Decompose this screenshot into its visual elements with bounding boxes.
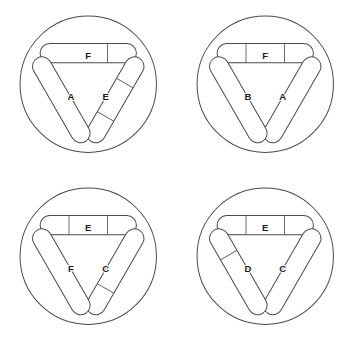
panel-3: ECF [0,172,177,344]
panel-4-canvas: ECD [177,172,353,344]
bar-label-b: B [244,91,251,102]
bar-label-c: C [279,264,286,275]
bar-label-e: E [102,91,108,102]
bar-label-c: C [102,264,109,275]
panel-2: FAB [177,0,353,172]
bar-label-d: D [244,264,251,275]
panel-grid: FEAFABECFECD [0,0,353,344]
panel-1: FEA [0,0,177,172]
panel-4: ECD [177,172,353,344]
panel-1-canvas: FEA [0,0,177,172]
bar-label-f: F [85,50,91,61]
bar-label-f: F [68,264,74,275]
panel-3-canvas: ECF [0,172,177,344]
panel-2-canvas: FAB [177,0,353,172]
bar-label-e: E [85,223,91,234]
bar-label-e: E [262,223,268,234]
bar-label-a: A [67,91,74,102]
figure-root: FEAFABECFECD [0,0,353,344]
bar-label-a: A [279,91,286,102]
bar-label-f: F [262,50,268,61]
